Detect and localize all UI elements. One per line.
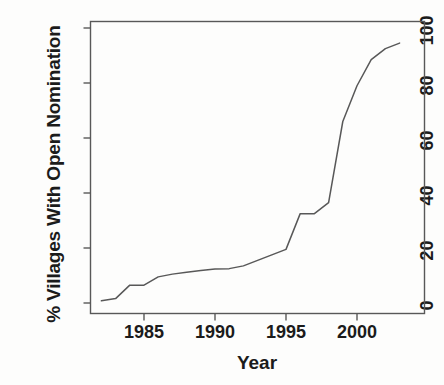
- plot-frame: [91, 22, 425, 314]
- line-series-open-nomination: [101, 43, 399, 301]
- x-axis-ticks: [144, 314, 357, 321]
- y-axis-ticks: [84, 28, 91, 303]
- chart-figure: % Villages With Open Nomination 0 20 40 …: [0, 0, 444, 385]
- axis-frame: [91, 22, 425, 314]
- data-series-group: [101, 43, 399, 301]
- plot-area: [0, 0, 444, 385]
